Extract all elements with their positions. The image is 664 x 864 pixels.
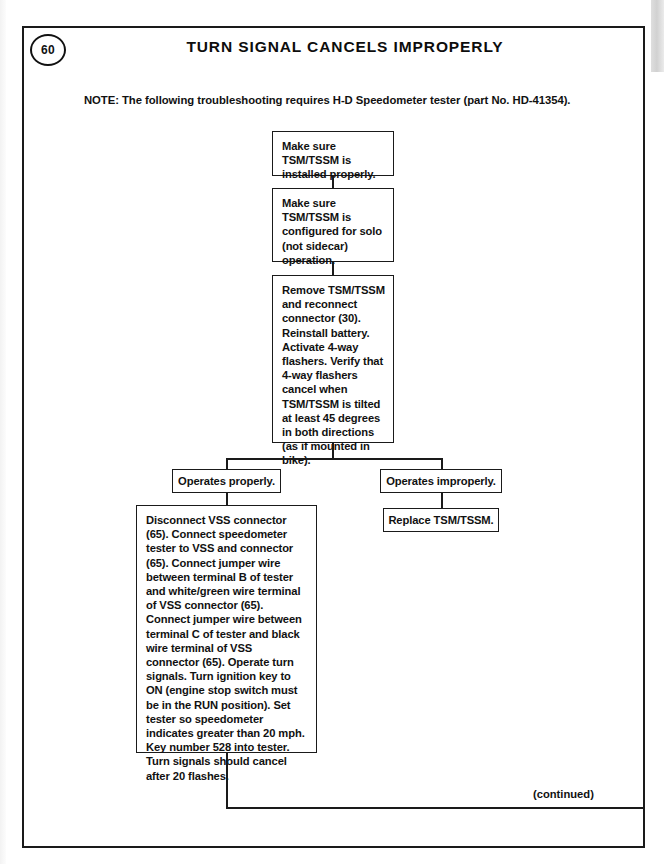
connector-branch-right-to-action (441, 493, 443, 508)
flow-box-branch-right: Operates improperly. (380, 469, 502, 493)
scan-artifact-top-right (651, 0, 664, 72)
connector-branch-left-to-action (226, 493, 228, 505)
flow-box-step2-text: Make sure TSM/TSSM is configured for sol… (273, 189, 393, 273)
flow-box-step2: Make sure TSM/TSSM is configured for sol… (272, 188, 394, 262)
manual-page: 60 TURN SIGNAL CANCELS IMPROPERLY NOTE: … (0, 0, 664, 864)
connector-fork-left-drop (226, 458, 228, 469)
flow-box-step1: Make sure TSM/TSSM is installed properly… (272, 131, 394, 176)
connector-continuation-stem (226, 753, 228, 809)
connector-continuation-rail (226, 807, 645, 809)
connector-step1-to-step2 (332, 176, 334, 188)
flow-box-left-action: Disconnect VSS connector (65). Connect s… (136, 505, 317, 753)
connector-step2-to-step3 (332, 262, 334, 275)
note-text: NOTE: The following troubleshooting requ… (84, 94, 570, 106)
flow-box-branch-left: Operates properly. (172, 469, 281, 493)
connector-fork-bar (226, 458, 443, 460)
flow-box-right-action-text: Replace TSM/TSSM. (388, 513, 493, 527)
flow-box-left-action-text: Disconnect VSS connector (65). Connect s… (137, 506, 316, 789)
connector-fork-right-drop (441, 458, 443, 469)
page-title: TURN SIGNAL CANCELS IMPROPERLY (130, 38, 560, 56)
flow-box-branch-right-text: Operates improperly. (386, 474, 496, 488)
connector-step3-fork-stem (332, 443, 334, 459)
continued-label: (continued) (533, 788, 594, 800)
page-number-badge: 60 (30, 34, 66, 66)
flow-box-right-action: Replace TSM/TSSM. (383, 508, 499, 532)
scan-artifact-left (0, 0, 6, 864)
flow-box-step3: Remove TSM/TSSM and reconnect connector … (272, 275, 394, 443)
flow-box-branch-left-text: Operates properly. (178, 474, 275, 488)
